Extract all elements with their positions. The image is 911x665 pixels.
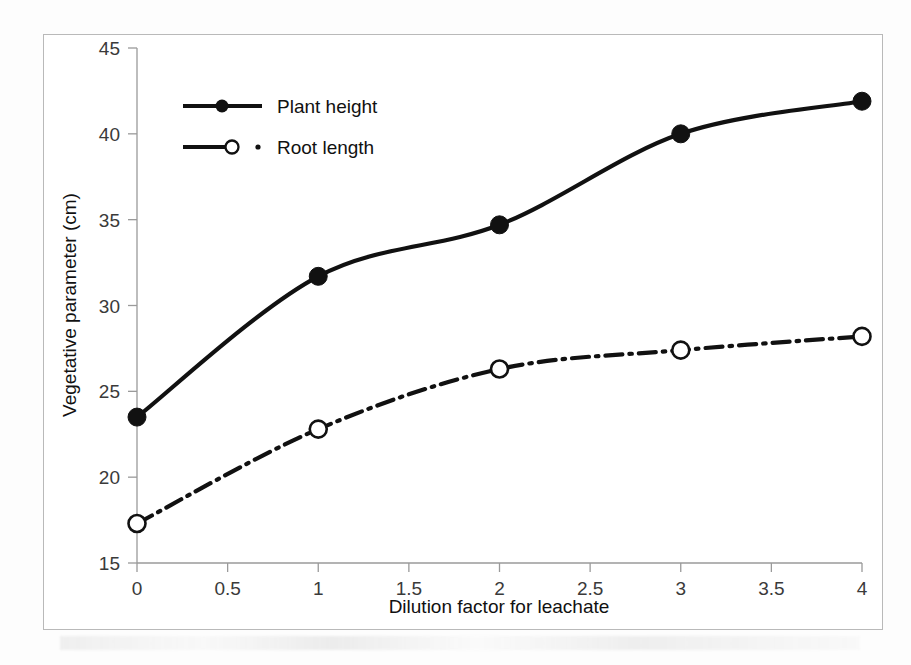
x-axis-title: Dilution factor for leachate (389, 596, 610, 617)
x-tick-label: 3 (675, 578, 686, 599)
data-point-root-length (672, 342, 689, 359)
x-tick-label: 0 (132, 578, 143, 599)
legend-marker-root-length (226, 141, 239, 154)
data-point-plant-height (672, 125, 690, 143)
data-point-root-length (491, 361, 508, 378)
y-tick-label: 30 (99, 296, 120, 317)
data-point-plant-height (128, 408, 146, 426)
data-point-root-length (854, 328, 871, 345)
axis-lines (137, 48, 862, 563)
chart-plot-area: 15202530354045 00.511.522.533.54 Plant h… (0, 0, 911, 665)
x-axis-ticks (137, 563, 862, 572)
x-tick-label: 0.5 (214, 578, 240, 599)
y-tick-label: 45 (99, 38, 120, 59)
data-point-root-length (310, 421, 327, 438)
y-tick-label: 35 (99, 210, 120, 231)
y-tick-label: 15 (99, 553, 120, 574)
y-tick-label: 40 (99, 124, 120, 145)
y-tick-label: 25 (99, 381, 120, 402)
data-point-plant-height (491, 216, 509, 234)
x-tick-label: 3.5 (758, 578, 784, 599)
x-tick-label: 4 (857, 578, 868, 599)
figure-container: 15202530354045 00.511.522.533.54 Plant h… (0, 0, 911, 665)
data-point-plant-height (309, 267, 327, 285)
scan-artifact (60, 636, 860, 650)
y-axis-ticks (128, 48, 137, 563)
legend-dot-root-length (255, 144, 260, 149)
y-tick-label: 20 (99, 467, 120, 488)
data-series-group (128, 92, 871, 532)
x-tick-label: 1 (313, 578, 324, 599)
data-point-plant-height (853, 92, 871, 110)
y-axis-title: Vegetative parameter (cm) (59, 193, 80, 417)
chart-legend: Plant height Root length (183, 96, 378, 158)
data-point-root-length (129, 515, 146, 532)
legend-marker-plant-height (216, 100, 229, 113)
legend-label-plant-height: Plant height (277, 96, 378, 117)
legend-label-root-length: Root length (277, 137, 374, 158)
y-axis-tick-labels: 15202530354045 (99, 38, 120, 574)
